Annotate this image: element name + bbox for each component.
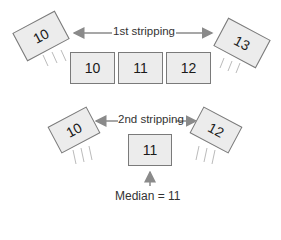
motion-lines-right-1st bbox=[220, 58, 240, 73]
remaining-card-11: 11 bbox=[118, 52, 163, 84]
card-value: 12 bbox=[181, 60, 197, 76]
median-label: Median = 11 bbox=[115, 189, 181, 203]
card-value: 13 bbox=[231, 32, 252, 53]
card-value: 11 bbox=[133, 60, 148, 76]
second-stripping-label: 2nd stripping bbox=[118, 113, 184, 125]
motion-lines-left-1st bbox=[43, 50, 66, 66]
motion-lines-left-2nd bbox=[73, 146, 92, 164]
card-value: 10 bbox=[30, 25, 51, 46]
card-value: 10 bbox=[85, 60, 101, 76]
card-value: 10 bbox=[63, 119, 84, 140]
remaining-card-12: 12 bbox=[166, 52, 211, 84]
remaining-card-10: 10 bbox=[70, 52, 115, 84]
median-card-11: 11 bbox=[128, 134, 172, 166]
first-stripping-label: 1st stripping bbox=[113, 25, 175, 37]
motion-lines-right-2nd bbox=[196, 146, 215, 164]
card-value: 11 bbox=[143, 142, 158, 158]
card-value: 12 bbox=[205, 119, 226, 140]
